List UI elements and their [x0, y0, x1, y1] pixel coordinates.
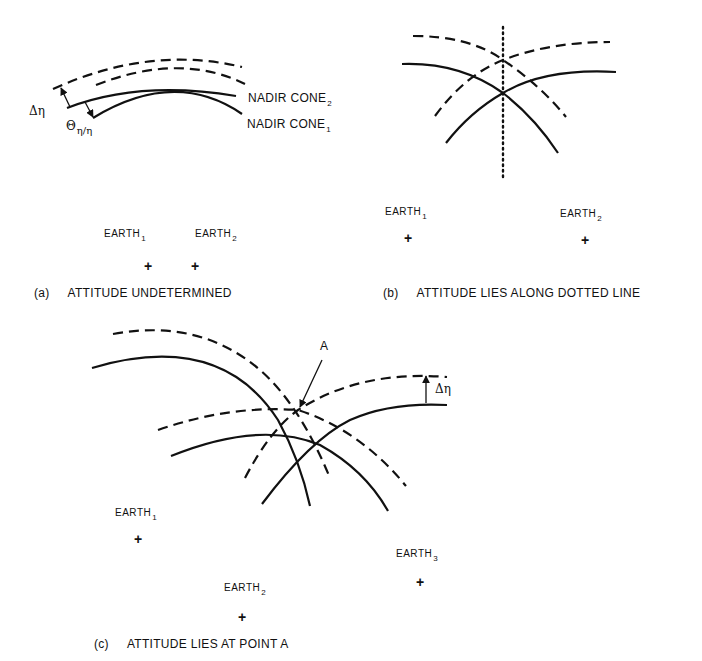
- panel-b-earth-1-label: EARTH1: [385, 206, 427, 217]
- panel-a-delta-eta-label: Δη: [29, 104, 45, 118]
- panel-b-earth-1-marker: +: [404, 231, 412, 245]
- panel-c-point-a-label: A: [320, 339, 328, 353]
- panel-b-diagram: [402, 27, 616, 178]
- panel-a-nadir-cone-1-label: NADIR CONE1: [247, 117, 331, 131]
- panel-b-dashed-cone-2: [435, 42, 610, 116]
- panel-a-earth-2-marker: +: [191, 259, 199, 273]
- panel-c-earth-1-marker: +: [134, 532, 142, 546]
- panel-a-solid-nadir-cone-1: [93, 92, 242, 118]
- panel-c-caption: (c)ATTITUDE LIES AT POINT A: [94, 637, 289, 651]
- panel-a-nadir-cone-2-label: NADIR CONE2: [248, 91, 332, 105]
- panel-c-solid-cone-earth2: [171, 435, 388, 511]
- panel-a-delta-eta-arrow: [61, 88, 70, 107]
- panel-c-solid-cone-earth3: [262, 405, 447, 504]
- panel-a-earth-2-label: EARTH2: [195, 228, 237, 239]
- panel-c-earth-2-label: EARTH2: [224, 582, 266, 593]
- panel-c-delta-eta-label: Δη: [435, 382, 451, 396]
- panel-c-earth-3-label: EARTH3: [396, 548, 438, 559]
- panel-b-caption: (b)ATTITUDE LIES ALONG DOTTED LINE: [383, 286, 640, 300]
- panel-a-diagram: [53, 60, 245, 118]
- panel-a-earth-1-label: EARTH1: [104, 228, 146, 239]
- panel-c-dashed-cone-earth1: [113, 330, 330, 478]
- panel-a-dashed-cone-inner: [96, 68, 245, 85]
- panel-c-earth-3-marker: +: [416, 575, 424, 589]
- panel-c-point-a-arrow: [300, 360, 322, 407]
- panel-b-earth-2-marker: +: [581, 233, 589, 247]
- panel-a-caption: (a)ATTITUDE UNDETERMINED: [34, 286, 232, 300]
- panel-c-earth-1-label: EARTH1: [115, 507, 157, 518]
- panel-a-dashed-cone-outer: [53, 60, 242, 89]
- panel-a-theta-label: Θη/η: [66, 119, 92, 133]
- panel-c-diagram: [92, 330, 447, 511]
- diagram-canvas: [0, 0, 702, 661]
- panel-b-earth-2-label: EARTH2: [560, 208, 602, 219]
- panel-a-theta-arrow: [85, 102, 93, 117]
- panel-a-earth-1-marker: +: [144, 259, 152, 273]
- panel-c-earth-2-marker: +: [238, 610, 246, 624]
